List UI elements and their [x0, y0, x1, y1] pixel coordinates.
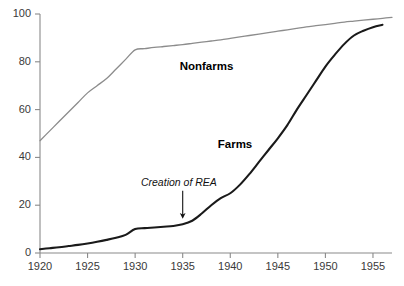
- x-axis-ticks: 19201925193019351940194519501955: [28, 253, 385, 272]
- series-label-nonfarms: Nonfarms: [180, 60, 234, 72]
- x-tick-label: 1930: [123, 260, 147, 272]
- y-tick-label: 100: [13, 7, 31, 19]
- x-axis-group: 19201925193019351940194519501955: [28, 253, 392, 272]
- series-line-farms: [40, 25, 382, 249]
- x-tick-label: 1935: [170, 260, 194, 272]
- x-tick-label: 1955: [361, 260, 385, 272]
- chart-container: 020406080100 192019251930193519401945195…: [0, 0, 404, 286]
- series-label-farms: Farms: [218, 138, 253, 150]
- x-tick-label: 1925: [75, 260, 99, 272]
- series-line-nonfarms: [40, 17, 392, 140]
- line-chart: 020406080100 192019251930193519401945195…: [0, 0, 404, 286]
- x-tick-label: 1950: [313, 260, 337, 272]
- series-inline-labels: NonfarmsFarms: [180, 60, 253, 151]
- y-tick-label: 80: [19, 55, 31, 67]
- annotation-text-creation-of-rea: Creation of REA: [141, 176, 217, 188]
- y-tick-label: 40: [19, 150, 31, 162]
- y-tick-label: 60: [19, 103, 31, 115]
- y-axis-group: 020406080100: [13, 7, 40, 258]
- x-tick-label: 1920: [28, 260, 52, 272]
- y-tick-label: 20: [19, 198, 31, 210]
- y-axis-ticks: 020406080100: [13, 7, 40, 258]
- y-tick-label: 0: [25, 246, 31, 258]
- x-tick-label: 1945: [266, 260, 290, 272]
- x-tick-label: 1940: [218, 260, 242, 272]
- series-group: [40, 17, 392, 249]
